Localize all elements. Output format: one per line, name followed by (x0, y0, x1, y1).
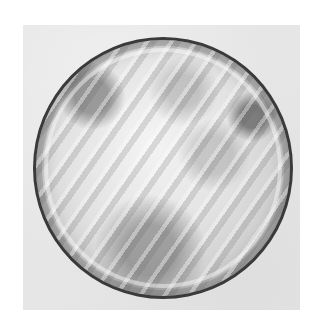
zona-pellucida-rim (44, 48, 282, 288)
blastocyst (33, 37, 293, 299)
